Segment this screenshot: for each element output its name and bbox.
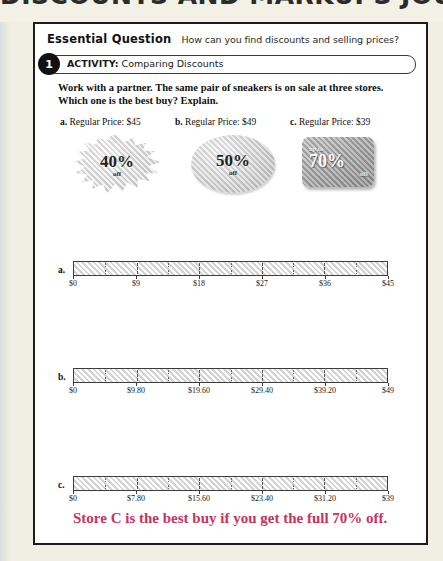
store-column-b: b. Regular Price: $49 50% off <box>175 117 290 197</box>
number-line-value-label: $19.60 <box>188 386 210 395</box>
oval-discount-badge: 50% off <box>191 135 275 193</box>
worksheet-page: Essential Question How can you find disc… <box>33 22 428 545</box>
student-answer-text: Store C is the best buy if you get the f… <box>73 509 412 528</box>
number-line-minor-tick <box>168 370 169 374</box>
number-line-value-label: $9 <box>132 279 140 288</box>
number-line-minor-tick <box>168 263 169 267</box>
number-line-value-label: $39.20 <box>314 386 336 395</box>
number-line-minor-tick <box>105 377 106 381</box>
store-column-a: a. Regular Price: $45 40% off <box>60 117 175 197</box>
essential-question-row: Essential Question How can you find disc… <box>47 32 416 46</box>
number-line-value-label: $45 <box>382 279 394 288</box>
store-b-heading: b. Regular Price: $49 <box>175 117 290 127</box>
number-line-divider <box>262 478 263 489</box>
number-line-b-bar <box>73 368 388 383</box>
number-line-minor-tick <box>168 485 169 489</box>
number-line-minor-tick <box>231 478 232 482</box>
number-line-minor-tick <box>105 263 106 267</box>
store-a-letter: a. <box>60 117 67 127</box>
number-line-divider <box>199 263 200 274</box>
number-line-divider <box>324 478 325 489</box>
number-line-minor-tick <box>105 270 106 274</box>
number-line-c-letter: c. <box>58 480 65 490</box>
number-line-divider <box>137 478 138 489</box>
number-line-value-label: $23.40 <box>251 494 273 503</box>
number-line-minor-tick <box>231 270 232 274</box>
number-line-minor-tick <box>105 485 106 489</box>
number-line-value-label: $29.40 <box>251 386 273 395</box>
store-b-badge-area: 50% off <box>175 135 290 197</box>
number-line-minor-tick <box>231 370 232 374</box>
number-line-divider <box>199 478 200 489</box>
number-line-minor-tick <box>231 485 232 489</box>
number-line-a-labels: $0$9$18$27$36$45 <box>73 279 388 291</box>
number-line-minor-tick <box>356 270 357 274</box>
number-line-c-labels: $0$7.80$15.60$23.40$31.20$39 <box>73 494 388 506</box>
number-line-minor-tick <box>293 478 294 482</box>
store-c-letter: c. <box>290 117 297 127</box>
number-line-minor-tick <box>356 377 357 381</box>
activity-number-badge: 1 <box>38 53 60 75</box>
number-line-minor-tick <box>105 370 106 374</box>
number-line-minor-tick <box>356 370 357 374</box>
number-line-c-bar <box>73 476 388 491</box>
essential-question-label: Essential Question <box>47 32 171 46</box>
number-line-value-label: $18 <box>193 279 205 288</box>
number-line-divider <box>262 263 263 274</box>
store-c-badge-area: up to 70% off <box>290 135 410 197</box>
scan-top-band: DISCOUNTS AND MARKUPS JOURNAL <box>0 0 443 22</box>
number-line-value-label: $0 <box>69 494 77 503</box>
number-line-minor-tick <box>293 485 294 489</box>
number-line-minor-tick <box>356 485 357 489</box>
rounded-rect-shape <box>302 137 374 187</box>
clipped-page-title: DISCOUNTS AND MARKUPS JOURNAL <box>0 0 443 10</box>
number-line-value-label: $49 <box>382 386 394 395</box>
starburst-discount-badge: 40% off <box>74 135 160 195</box>
worksheet-content: Essential Question How can you find disc… <box>35 24 426 543</box>
number-line-value-label: $7.80 <box>127 494 145 503</box>
number-line-minor-tick <box>356 263 357 267</box>
number-line-minor-tick <box>293 270 294 274</box>
instruction-paragraph: Work with a partner. The same pair of sn… <box>58 81 408 107</box>
number-line-b-labels: $0$9.80$19.60$29.40$39.20$49 <box>73 386 388 398</box>
store-column-c: c. Regular Price: $39 up to 70% off <box>290 117 410 197</box>
number-line-value-label: $0 <box>69 279 77 288</box>
number-line-a-bar <box>73 261 388 276</box>
number-line-minor-tick <box>231 377 232 381</box>
number-line-a-letter: a. <box>58 265 65 275</box>
store-a-badge-area: 40% off <box>60 135 175 197</box>
number-line-value-label: $27 <box>256 279 268 288</box>
number-line-divider <box>199 370 200 381</box>
number-line-divider <box>262 370 263 381</box>
store-b-price: Regular Price: $49 <box>185 117 256 127</box>
number-line-b-letter: b. <box>58 372 66 382</box>
store-b-letter: b. <box>175 117 183 127</box>
number-line-minor-tick <box>168 270 169 274</box>
number-line-divider <box>137 370 138 381</box>
number-line-divider <box>324 263 325 274</box>
number-line-minor-tick <box>356 478 357 482</box>
number-line-divider <box>137 263 138 274</box>
number-line-minor-tick <box>293 370 294 374</box>
starburst-shape <box>74 135 160 195</box>
store-a-price: Regular Price: $45 <box>70 117 141 127</box>
number-line-value-label: $39 <box>382 494 394 503</box>
store-c-price: Regular Price: $39 <box>299 117 370 127</box>
number-line-value-label: $36 <box>319 279 331 288</box>
number-line-minor-tick <box>231 263 232 267</box>
rounded-rect-discount-badge: up to 70% off <box>302 137 374 187</box>
oval-shape <box>191 135 275 193</box>
number-line-minor-tick <box>168 478 169 482</box>
number-line-minor-tick <box>168 377 169 381</box>
number-line-value-label: $9.80 <box>127 386 145 395</box>
number-line-value-label: $31.20 <box>314 494 336 503</box>
number-line-value-label: $0 <box>69 386 77 395</box>
store-a-heading: a. Regular Price: $45 <box>60 117 175 127</box>
instruction-line-1: Work with a partner. The same pair of sn… <box>58 81 408 94</box>
activity-kicker: ACTIVITY: <box>67 58 119 69</box>
number-line-minor-tick <box>293 263 294 267</box>
essential-question-text: How can you find discounts and selling p… <box>181 34 398 45</box>
activity-title: Comparing Discounts <box>122 58 224 69</box>
scan-left-edge-strip <box>0 0 9 561</box>
number-line-minor-tick <box>105 478 106 482</box>
